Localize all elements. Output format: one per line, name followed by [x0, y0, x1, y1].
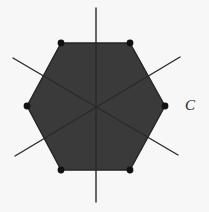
hexagon-figure-svg: C	[0, 0, 209, 212]
figure-container: C	[0, 0, 209, 212]
vertex-marker-top-left	[58, 40, 65, 47]
vertex-marker-top-right	[127, 40, 134, 47]
vertex-marker-left	[24, 103, 31, 110]
vertex-marker-bottom-left	[58, 167, 65, 174]
hexagon-label-c: C	[185, 97, 196, 113]
vertex-marker-right	[162, 103, 169, 110]
vertex-marker-bottom-right	[127, 167, 134, 174]
